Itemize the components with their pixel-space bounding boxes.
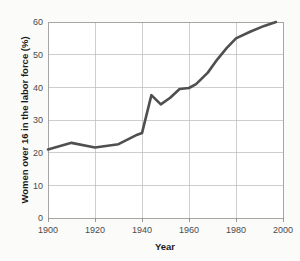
x-tick-label-1960: 1960 — [179, 225, 199, 235]
x-tick-label-1980: 1980 — [226, 225, 246, 235]
y-tick-label-0: 0 — [38, 213, 43, 223]
y-axis-title: Women over 16 in the labor force (%) — [19, 36, 30, 203]
x-tick-label-1920: 1920 — [85, 225, 105, 235]
x-tick-label-1940: 1940 — [132, 225, 152, 235]
x-tick-label-2000: 2000 — [273, 225, 293, 235]
x-axis-title: Year — [155, 241, 175, 252]
line-chart: 0 10 20 30 40 50 60 1900 1920 1940 1960 … — [0, 0, 300, 261]
plot-background — [0, 0, 300, 261]
y-tick-label-50: 50 — [33, 50, 43, 60]
y-tick-label-60: 60 — [33, 17, 43, 27]
y-tick-label-10: 10 — [33, 181, 43, 191]
y-tick-label-30: 30 — [33, 115, 43, 125]
y-tick-label-40: 40 — [33, 83, 43, 93]
chart-figure: 0 10 20 30 40 50 60 1900 1920 1940 1960 … — [0, 0, 300, 261]
x-tick-label-1900: 1900 — [38, 225, 58, 235]
y-tick-label-20: 20 — [33, 148, 43, 158]
